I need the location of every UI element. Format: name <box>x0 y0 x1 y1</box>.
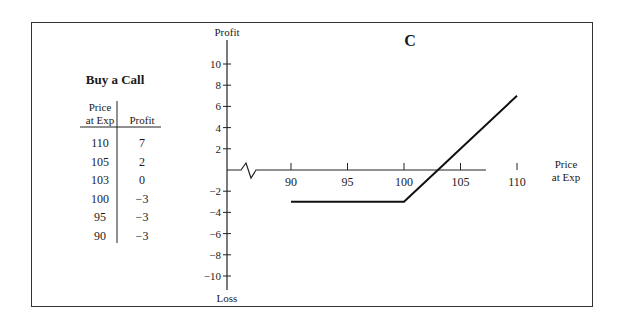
y-tick-label: −2 <box>209 185 221 197</box>
y-tick-label: −8 <box>209 249 221 261</box>
payoff-chart: 108642−2−4−6−8−10 9095100105110 Profit L… <box>0 0 623 326</box>
x-axis <box>227 163 486 178</box>
panel-label: C <box>404 32 416 49</box>
y-tick-label: −6 <box>209 228 221 240</box>
y-tick-label: 4 <box>216 122 222 134</box>
x-tick-label: 105 <box>452 175 470 189</box>
x-tick-label: 110 <box>508 175 526 189</box>
y-tick-label: −4 <box>209 206 221 218</box>
y-axis-bottom-label: Loss <box>217 292 238 304</box>
y-axis-top-label: Profit <box>214 26 239 38</box>
x-tick-label: 95 <box>342 175 354 189</box>
x-axis-label-line1: Price <box>555 158 578 170</box>
y-tick-label: 10 <box>210 58 222 70</box>
x-tick-label: 100 <box>395 175 413 189</box>
x-axis-label-line2: at Exp <box>552 171 581 183</box>
x-tick-label: 90 <box>285 175 297 189</box>
y-tick-label: 8 <box>216 79 222 91</box>
y-tick-label: 2 <box>216 143 222 155</box>
y-tick-label: 6 <box>216 100 222 112</box>
y-tick-label: −10 <box>204 270 222 282</box>
x-ticks: 9095100105110 <box>285 163 526 189</box>
